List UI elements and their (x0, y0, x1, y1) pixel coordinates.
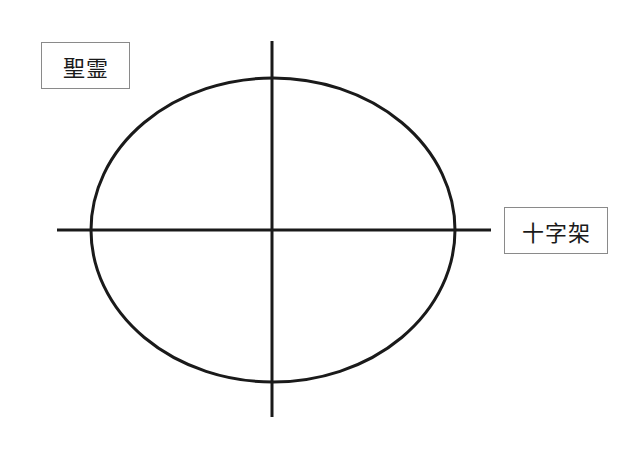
label-cross: 十字架 (504, 207, 608, 254)
label-holy-spirit: 聖霊 (41, 42, 130, 89)
